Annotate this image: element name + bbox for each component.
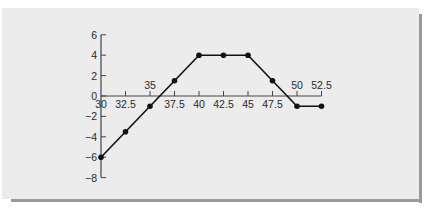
x-tick-label: 50: [291, 79, 303, 91]
y-tick-label: −8: [85, 172, 97, 184]
x-tick-label: 30: [95, 98, 107, 110]
data-point: [147, 103, 153, 109]
x-tick-label: 45: [242, 98, 254, 110]
data-point: [245, 52, 251, 58]
data-point: [294, 103, 300, 109]
line-chart: 6420−2−4−6−8 3032.53537.54042.54547.5505…: [0, 0, 431, 211]
data-point: [319, 103, 325, 109]
x-tick-label: 42.5: [213, 98, 234, 110]
y-tick-label: −4: [85, 131, 97, 143]
data-point: [123, 129, 129, 135]
data-point: [221, 52, 227, 58]
x-tick-label: 37.5: [164, 98, 185, 110]
x-tick-label: 35: [144, 79, 156, 91]
x-tick-label: 32.5: [115, 98, 136, 110]
x-tick-label: 52.5: [311, 79, 332, 91]
data-point: [98, 154, 104, 160]
data-point: [270, 78, 276, 84]
x-tick-label: 47.5: [262, 98, 283, 110]
y-tick-label: 6: [91, 29, 97, 41]
y-tick-label: −6: [85, 151, 97, 163]
y-tick-label: −2: [85, 110, 97, 122]
data-point: [172, 78, 178, 84]
data-point: [196, 52, 202, 58]
y-tick-label: 4: [91, 49, 97, 61]
y-tick-label: 2: [91, 70, 97, 82]
x-tick-label: 40: [193, 98, 205, 110]
